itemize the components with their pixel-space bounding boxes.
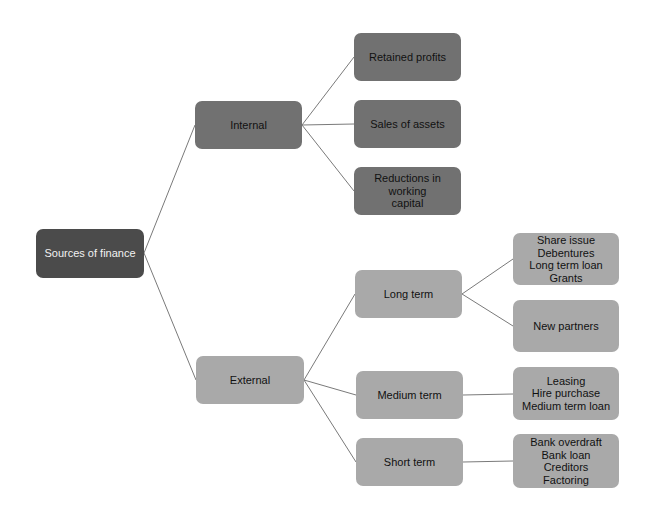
sources-of-finance-diagram: Sources of finance Internal Retained pro… <box>0 0 658 513</box>
node-medium-term: Medium term <box>356 371 463 419</box>
node-label: Retained profits <box>369 51 446 64</box>
node-reductions-in-working-capital: Reductions in working capital <box>354 167 461 215</box>
node-label: Sales of assets <box>370 118 445 131</box>
node-retained-profits: Retained profits <box>354 33 461 81</box>
node-label: Bank overdraft Bank loan Creditors Facto… <box>530 436 602 486</box>
node-short-term: Short term <box>356 438 463 486</box>
node-label: Share issue Debentures Long term loan Gr… <box>529 234 602 284</box>
node-internal: Internal <box>195 101 302 149</box>
node-label: Leasing Hire purchase Medium term loan <box>522 375 610 413</box>
node-label: Internal <box>230 119 267 132</box>
node-label: Sources of finance <box>44 247 135 260</box>
node-label: Reductions in working capital <box>356 172 459 210</box>
node-long-term-sources: Share issue Debentures Long term loan Gr… <box>513 233 619 285</box>
node-label: New partners <box>533 320 598 333</box>
node-label: Medium term <box>377 389 441 402</box>
node-medium-term-sources: Leasing Hire purchase Medium term loan <box>513 367 619 420</box>
node-label: Short term <box>384 456 435 469</box>
node-short-term-sources: Bank overdraft Bank loan Creditors Facto… <box>513 434 619 488</box>
node-new-partners: New partners <box>513 300 619 352</box>
node-long-term: Long term <box>355 270 462 318</box>
node-sales-of-assets: Sales of assets <box>354 100 461 148</box>
node-external: External <box>196 356 304 404</box>
node-label: External <box>230 374 270 387</box>
node-sources-of-finance: Sources of finance <box>36 229 144 278</box>
node-label: Long term <box>384 288 434 301</box>
